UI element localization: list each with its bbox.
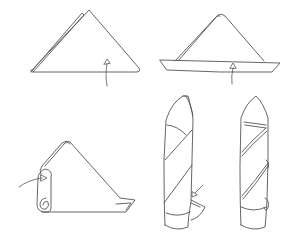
tuck-arrow-icon [192, 185, 203, 197]
step-1-triangle-fold [31, 10, 140, 86]
roll-arrow-icon [19, 175, 47, 187]
step-5-finished-cone [240, 96, 269, 229]
step-2-triangle-hem-fold [160, 14, 280, 84]
fold-arrow-icon [230, 63, 236, 84]
fold-arrow-icon [104, 59, 110, 86]
step-3-rolled-triangle [19, 141, 135, 212]
napkin-folding-diagram [0, 0, 293, 249]
step-4-cone-tuck [164, 96, 205, 229]
